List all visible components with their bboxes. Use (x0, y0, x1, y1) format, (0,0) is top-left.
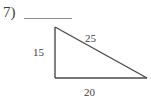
worksheet-problem: 7) 15 25 20 (0, 0, 151, 108)
hypotenuse-length-label: 25 (85, 32, 96, 44)
right-triangle-figure (0, 0, 151, 108)
triangle-hypotenuse (55, 27, 147, 78)
vertical-leg-length-label: 15 (33, 46, 44, 58)
base-leg-length-label: 20 (84, 86, 95, 98)
